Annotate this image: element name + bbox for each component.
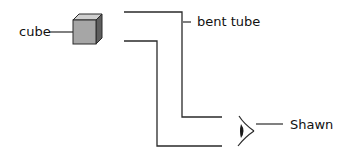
observer-label: Shawn <box>290 118 333 131</box>
eye-icon <box>238 116 254 146</box>
tube-inner-wall <box>124 41 222 146</box>
tube-label: bent tube <box>197 15 260 28</box>
bent-tube-diagram: cube bent tube Shawn <box>0 0 348 155</box>
cube-label: cube <box>19 25 51 38</box>
cube-icon <box>73 14 102 44</box>
